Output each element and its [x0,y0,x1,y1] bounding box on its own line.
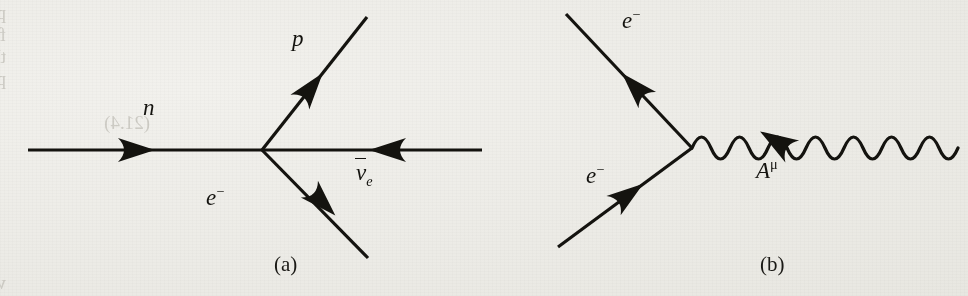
feynman-diagram-canvas [0,0,968,296]
label-electron-out-symbol: e [622,8,632,33]
label-photon-field-symbol: A [756,158,770,183]
label-electron-in: e− [586,161,604,189]
label-antineutrino-symbol: v [356,160,366,186]
electron-arrowhead [301,181,344,224]
electron-in-arrowhead [606,174,650,215]
caption-b: (b) [760,252,785,277]
panel-a [28,17,482,258]
label-electron-out-charge: − [632,6,640,22]
label-photon-field-index: μ [770,156,778,172]
photon-wavy-line [692,137,958,159]
label-electron-in-symbol: e [586,163,596,188]
label-proton: p [292,26,304,52]
label-antineutrino-flavor: e [366,173,372,189]
label-photon-field: Aμ [756,156,778,184]
label-electron-a-charge: − [216,183,224,199]
caption-a: (a) [274,252,297,277]
label-electron-out: e− [622,6,640,34]
label-antineutrino: ve [356,160,373,190]
panel-b [558,14,958,247]
label-electron-a-symbol: e [206,185,216,210]
label-neutron: n [143,95,155,121]
label-electron-a: e− [206,183,224,211]
proton-arrowhead [290,66,332,110]
label-electron-in-charge: − [596,161,604,177]
